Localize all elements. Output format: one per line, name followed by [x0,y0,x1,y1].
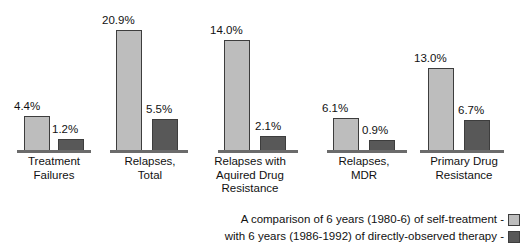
bar-light-relapses-mdr [333,118,359,152]
bar-light-treatment-failures [24,116,50,152]
label-line: MDR [312,169,416,183]
label-line: Failures [2,169,106,183]
bar-value-dark-relapses-mdr: 0.9% [362,124,388,137]
bar-group-plot: 20.9% 5.5% [98,0,202,152]
label-line: Aquired Drug [198,169,302,183]
bar-dark-primary-drug-resistance [464,120,490,152]
label-line: Resistance [198,182,302,196]
bar-value-light-relapses-mdr: 6.1% [322,102,348,115]
chart-plot-area: 4.4% 1.2% Treatment Failures 20.9% 5.5% … [0,0,528,196]
bar-group-relapses-acquired-drug-resistance: 14.0% 2.1% Relapses with Aquired Drug Re… [198,0,302,196]
bar-group-relapses-total: 20.9% 5.5% Relapses, Total [98,0,202,196]
label-line: Primary Drug [412,155,516,169]
bar-value-light-relapses-acquired-drug-resistance: 14.0% [210,24,243,37]
bar-group-plot: 4.4% 1.2% [2,0,106,152]
bar-group-label-relapses-mdr: Relapses, MDR [312,152,416,196]
legend-swatch-light [508,214,520,226]
bar-group-label-treatment-failures: Treatment Failures [2,152,106,196]
label-line: Relapses with [198,155,302,169]
label-line: Resistance [412,169,516,183]
bar-value-dark-relapses-total: 5.5% [146,103,172,116]
legend-label-directly-observed-therapy: with 6 years (1986-1992) of directly-obs… [225,228,504,245]
label-line: Total [98,169,202,183]
bar-group-label-primary-drug-resistance: Primary Drug Resistance [412,152,516,196]
bar-value-dark-primary-drug-resistance: 6.7% [458,104,484,117]
legend-item-directly-observed-therapy: with 6 years (1986-1992) of directly-obs… [190,228,520,245]
bar-group-label-relapses-acquired-drug-resistance: Relapses with Aquired Drug Resistance [198,152,302,196]
bar-value-light-primary-drug-resistance: 13.0% [414,52,447,65]
label-line: Treatment [2,155,106,169]
bar-group-plot: 6.1% 0.9% [312,0,416,152]
bar-group-treatment-failures: 4.4% 1.2% Treatment Failures [2,0,106,196]
bar-chart: 4.4% 1.2% Treatment Failures 20.9% 5.5% … [0,0,528,251]
bar-light-primary-drug-resistance [428,68,454,152]
label-line: Relapses, [98,155,202,169]
bar-value-dark-relapses-acquired-drug-resistance: 2.1% [255,120,281,133]
bar-light-relapses-acquired-drug-resistance [224,40,250,152]
legend-swatch-dark [508,231,520,243]
legend-label-self-treatment: A comparison of 6 years (1980-6) of self… [241,211,504,228]
bar-dark-relapses-total [152,119,178,152]
bar-group-label-relapses-total: Relapses, Total [98,152,202,196]
bar-value-dark-treatment-failures: 1.2% [52,123,78,136]
bar-group-primary-drug-resistance: 13.0% 6.7% Primary Drug Resistance [412,0,516,196]
bar-group-relapses-mdr: 6.1% 0.9% Relapses, MDR [312,0,416,196]
bar-value-light-relapses-total: 20.9% [102,14,135,27]
label-line: Relapses, [312,155,416,169]
bar-group-plot: 14.0% 2.1% [198,0,302,152]
bar-light-relapses-total [116,30,142,152]
legend-item-self-treatment: A comparison of 6 years (1980-6) of self… [190,211,520,228]
bar-group-plot: 13.0% 6.7% [412,0,516,152]
bar-value-light-treatment-failures: 4.4% [14,100,40,113]
chart-legend: A comparison of 6 years (1980-6) of self… [190,211,520,245]
